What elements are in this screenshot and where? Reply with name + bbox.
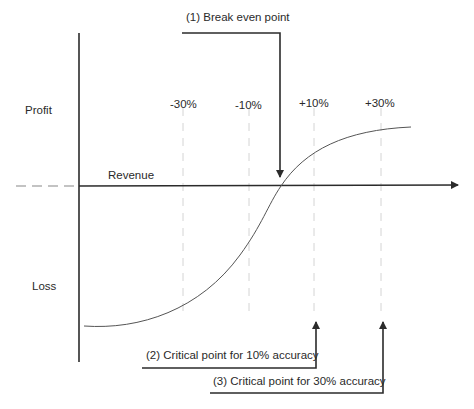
profit-curve — [84, 127, 411, 326]
loss-label: Loss — [32, 281, 56, 293]
revenue-label: Revenue — [108, 170, 154, 182]
marker-label-minus10: -10% — [235, 100, 262, 112]
profit-label: Profit — [25, 105, 52, 117]
x-axis — [79, 185, 458, 186]
break-even-diagram: (1) Break even point Profit Loss Revenue… — [0, 0, 474, 409]
break-even-label: (1) Break even point — [186, 12, 290, 24]
accuracy-guide-lines — [183, 108, 381, 315]
critical-30-label: (3) Critical point for 30% accuracy — [213, 376, 386, 388]
critical-10-label: (2) Critical point for 10% accuracy — [146, 350, 319, 362]
marker-label-minus30: -30% — [170, 99, 197, 111]
marker-label-plus10: +10% — [299, 98, 329, 110]
diagram-canvas — [0, 0, 474, 409]
marker-label-plus30: +30% — [365, 98, 395, 110]
